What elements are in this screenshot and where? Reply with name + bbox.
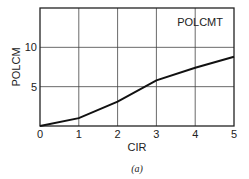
x-tick-label: 2 <box>115 128 121 140</box>
x-axis-ticks: 012345 <box>37 128 237 140</box>
x-axis-label: CIR <box>128 141 147 153</box>
x-tick-label: 0 <box>37 128 43 140</box>
x-tick-label: 4 <box>192 128 198 140</box>
series-annotation: POLCMT <box>177 16 223 28</box>
figure-caption: (a) <box>131 163 143 175</box>
y-tick-label: 10 <box>25 41 37 53</box>
y-axis-label: POLCM <box>10 47 22 86</box>
x-tick-label: 3 <box>153 128 159 140</box>
line-chart: 012345 510 POLCMT CIR POLCM (a) <box>0 0 249 179</box>
x-tick-label: 5 <box>231 128 237 140</box>
x-tick-label: 1 <box>76 128 82 140</box>
y-tick-label: 5 <box>31 81 37 93</box>
data-line-polcmt <box>40 57 234 126</box>
y-axis-ticks: 510 <box>25 41 37 92</box>
